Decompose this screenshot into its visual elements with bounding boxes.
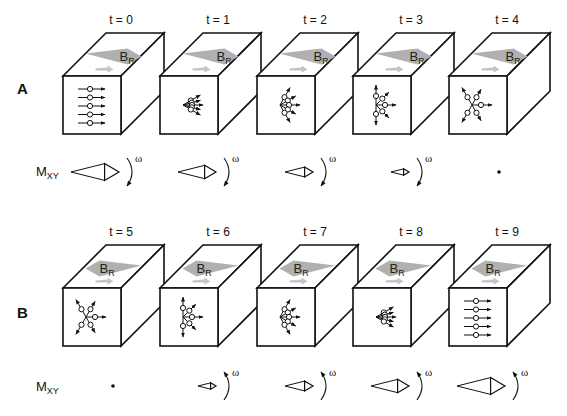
- time-label: t = 8: [399, 225, 423, 239]
- svg-text:MXY: MXY: [36, 379, 59, 396]
- row-label-a: A: [17, 80, 28, 97]
- frame-t4: t = 4BR: [449, 13, 550, 174]
- frame-t9: t = 9BRω: [449, 225, 550, 400]
- time-label: t = 5: [109, 225, 133, 239]
- rotation-arrow-icon: ω: [513, 366, 528, 400]
- row-b: t = 5BRt = 6BRωt = 7BRωt = 8BRωt = 9BRω: [63, 225, 550, 400]
- sample-cube: [257, 33, 358, 134]
- omega-label: ω: [329, 366, 336, 378]
- frame-t5: t = 5BR: [63, 225, 164, 388]
- frame-t0: t = 0BRω: [63, 13, 164, 186]
- mxy-vector-icon: [71, 164, 119, 181]
- rotary-echo-diagram: A MXY B MXY t = 0BRωt = 1BRωt = 2BRωt = …: [0, 0, 567, 416]
- sample-cube: [160, 33, 261, 134]
- sample-cube: [63, 33, 164, 134]
- row-a: t = 0BRωt = 1BRωt = 2BRωt = 3BRωt = 4BR: [63, 13, 550, 186]
- omega-label: ω: [329, 152, 336, 164]
- frame-t3: t = 3BRω: [353, 13, 454, 186]
- mxy-vector-icon: [285, 167, 313, 177]
- rotation-arrow-icon: ω: [321, 152, 336, 186]
- time-label: t = 3: [399, 13, 423, 27]
- time-label: t = 1: [206, 13, 230, 27]
- rotation-arrow-icon: ω: [321, 366, 336, 400]
- omega-label: ω: [232, 366, 239, 378]
- time-label: t = 7: [303, 225, 327, 239]
- frame-t7: t = 7BRω: [257, 225, 358, 400]
- sample-cube: [353, 33, 454, 134]
- sample-cube: [160, 245, 261, 346]
- frame-t8: t = 8BRω: [353, 225, 454, 400]
- omega-label: ω: [135, 152, 142, 164]
- rotation-arrow-icon: ω: [224, 366, 239, 400]
- mxy-vector-icon: [497, 170, 501, 174]
- frame-t6: t = 6BRω: [160, 225, 261, 400]
- time-label: t = 9: [495, 225, 519, 239]
- svg-text:MXY: MXY: [36, 164, 59, 181]
- time-label: t = 6: [206, 225, 230, 239]
- mxy-vector-icon: [285, 381, 313, 391]
- sample-cube: [257, 245, 358, 346]
- mxy-vector-icon: [198, 383, 216, 389]
- row-label-b: B: [17, 304, 28, 321]
- omega-label: ω: [425, 366, 432, 378]
- mxy-label-a: MXY: [36, 164, 59, 181]
- mxy-vector-icon: [111, 384, 115, 388]
- rotation-arrow-icon: ω: [417, 152, 432, 186]
- omega-label: ω: [521, 366, 528, 378]
- time-label: t = 4: [495, 13, 519, 27]
- sample-cube: [353, 245, 454, 346]
- omega-label: ω: [425, 152, 432, 164]
- rotation-arrow-icon: ω: [417, 366, 432, 400]
- sample-cube: [449, 245, 550, 346]
- mxy-vector-icon: [371, 379, 409, 392]
- mxy-vector-icon: [178, 165, 216, 178]
- omega-label: ω: [232, 152, 239, 164]
- frame-t2: t = 2BRω: [257, 13, 358, 186]
- time-label: t = 0: [109, 13, 133, 27]
- mxy-label-b: MXY: [36, 379, 59, 396]
- rotation-arrow-icon: ω: [127, 152, 142, 186]
- rotation-arrow-icon: ω: [224, 152, 239, 186]
- frame-t1: t = 1BRω: [160, 13, 261, 186]
- time-label: t = 2: [303, 13, 327, 27]
- mxy-vector-icon: [391, 169, 409, 175]
- mxy-vector-icon: [457, 378, 505, 395]
